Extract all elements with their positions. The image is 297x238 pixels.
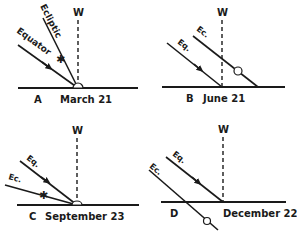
panel-b: W Eq. Ec. B June 21 — [162, 7, 285, 104]
panel-d: W Eq. Ec. D December 22 — [148, 124, 297, 230]
ecliptic-line — [193, 36, 258, 87]
sun-half-circle-icon — [73, 83, 83, 88]
panel-letter: C — [29, 211, 36, 222]
panel-a: W Equator Ecliptic ✱ A March 21 — [15, 2, 138, 105]
panel-letter: A — [34, 94, 42, 105]
equator-arrow-icon — [192, 177, 199, 183]
seasonal-ecliptic-diagram: W Equator Ecliptic ✱ A March 21 W Eq. Ec… — [0, 0, 297, 238]
sun-circle-icon — [234, 67, 242, 75]
ecliptic-label: Ec. — [195, 24, 211, 39]
equator-label: Eq. — [176, 37, 193, 53]
west-label: W — [73, 7, 84, 18]
sun-circle-icon — [204, 218, 211, 225]
equator-arrow-icon — [42, 62, 50, 68]
panel-date: March 21 — [60, 94, 112, 105]
star-marker-icon: ✱ — [56, 53, 65, 66]
west-label: W — [72, 125, 83, 136]
ecliptic-label: Ec. — [7, 172, 22, 184]
west-label: W — [217, 7, 228, 18]
west-label: W — [218, 124, 229, 135]
equator-arrow-icon — [194, 64, 201, 70]
ecliptic-label: Ec. — [148, 162, 164, 177]
panel-c: W Eq. Ec. ✱ C September 23 — [5, 125, 139, 222]
equator-label: Equator — [15, 26, 54, 58]
panel-date: December 22 — [223, 208, 297, 219]
equator-arrow-icon — [41, 177, 48, 182]
panel-letter: D — [170, 208, 178, 219]
equator-line — [20, 161, 77, 205]
star-marker-icon: ✱ — [39, 189, 48, 202]
panel-date: September 23 — [45, 211, 124, 222]
sun-half-circle-icon — [72, 201, 82, 205]
panel-letter: B — [186, 93, 194, 104]
panel-date: June 21 — [202, 93, 245, 104]
